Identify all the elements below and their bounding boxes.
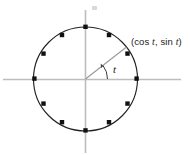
angle-arc	[103, 66, 108, 80]
marker-120deg	[60, 33, 64, 37]
point-label-close: )	[179, 36, 182, 47]
marker-210deg	[41, 101, 45, 105]
marker-300deg	[107, 120, 111, 124]
marker-30deg	[125, 51, 129, 55]
terminal-point-label: (cos t, sin t)	[131, 36, 182, 47]
unit-circle-svg	[0, 0, 191, 155]
marker-0deg	[134, 76, 138, 80]
unit-circle-figure: (cos t, sin t) t	[0, 0, 191, 155]
angle-label: t	[113, 63, 116, 75]
marker-60deg	[107, 33, 111, 37]
radius-line	[86, 47, 127, 79]
marker-270deg	[83, 128, 87, 132]
marker-150deg	[41, 51, 45, 55]
point-label-comma: , sin	[155, 36, 176, 47]
marker-240deg	[60, 120, 64, 124]
marker-90deg	[83, 25, 87, 29]
point-label-open: (cos	[131, 36, 152, 47]
marker-330deg	[125, 101, 129, 105]
stray-mark	[92, 6, 97, 10]
marker-180deg	[32, 76, 36, 80]
